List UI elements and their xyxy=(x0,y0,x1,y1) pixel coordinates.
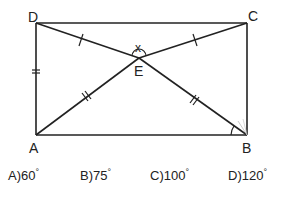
option-d[interactable]: D)120° xyxy=(228,168,267,183)
segment-BE xyxy=(139,58,247,135)
label-D: D xyxy=(28,9,38,25)
degree-symbol: ° xyxy=(263,167,267,177)
label-E: E xyxy=(134,63,143,79)
option-b-letter: B) xyxy=(80,168,93,183)
label-C: C xyxy=(248,8,258,24)
segment-DE xyxy=(36,23,139,58)
option-a-letter: A) xyxy=(8,168,21,183)
label-A: A xyxy=(29,140,39,156)
label-B: B xyxy=(242,140,251,156)
angle-arc-B xyxy=(231,126,234,135)
option-b[interactable]: B)75° xyxy=(80,168,111,183)
option-a[interactable]: A)60° xyxy=(8,168,39,183)
option-d-letter: D) xyxy=(228,168,242,183)
degree-symbol: ° xyxy=(35,167,39,177)
segment-AE xyxy=(36,58,139,135)
tick-mark-DE xyxy=(79,34,83,46)
degree-symbol: ° xyxy=(107,167,111,177)
option-a-value: 60 xyxy=(21,168,35,183)
option-b-value: 75 xyxy=(93,168,107,183)
option-c[interactable]: C)100° xyxy=(150,168,189,183)
degree-symbol: ° xyxy=(185,167,189,177)
option-c-letter: C) xyxy=(150,168,164,183)
option-d-value: 120 xyxy=(242,168,264,183)
segment-CE xyxy=(139,23,247,58)
option-c-value: 100 xyxy=(164,168,186,183)
label-x: x xyxy=(135,41,141,55)
